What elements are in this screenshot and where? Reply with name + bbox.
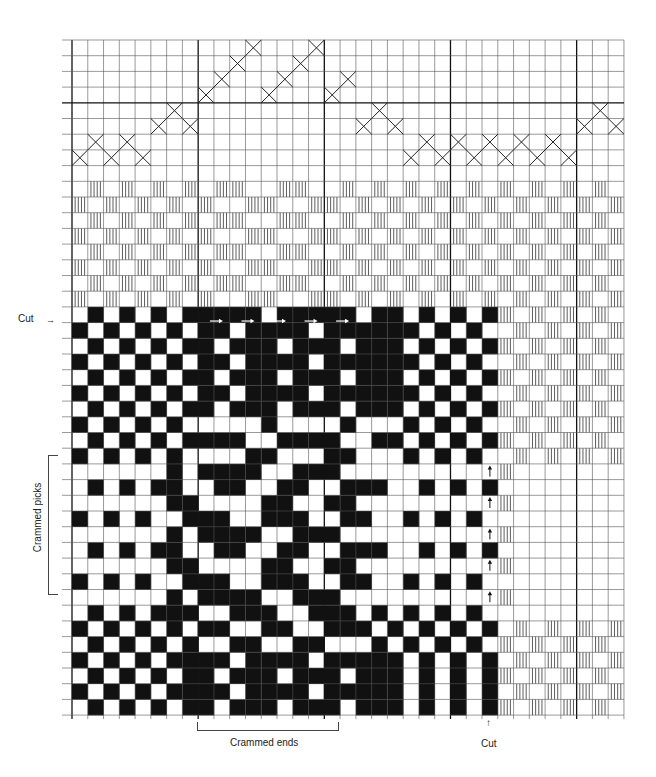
weave-cell-black: [372, 652, 388, 668]
weave-cell-black: [419, 668, 435, 684]
weave-cell-black: [151, 401, 167, 417]
weave-cell-black: [372, 323, 388, 339]
weave-cell-black: [119, 338, 135, 354]
weave-cell-black: [482, 338, 498, 354]
weave-cell-black: [198, 652, 214, 668]
weave-cell-black: [293, 527, 309, 543]
weave-cell-black: [324, 370, 340, 386]
weave-cell-black: [372, 385, 388, 401]
weave-cell-black: [198, 511, 214, 527]
weave-cell-black: [293, 354, 309, 370]
weave-cell-black: [340, 495, 356, 511]
weave-cell-black: [72, 354, 88, 370]
weave-cell-black: [293, 385, 309, 401]
weave-cell-black: [324, 385, 340, 401]
weave-cell-black: [435, 417, 451, 433]
weave-cell-black: [482, 684, 498, 700]
weave-cell-black: [324, 464, 340, 480]
weave-cell-black: [293, 652, 309, 668]
arrow-up-icon: ↑: [486, 718, 491, 728]
weave-cell-black: [182, 338, 198, 354]
weave-cell-black: [277, 558, 293, 574]
weave-cell-black: [293, 511, 309, 527]
weave-cell-black: [403, 637, 419, 653]
weave-cell-black: [214, 354, 230, 370]
weave-cell-black: [466, 574, 482, 590]
weave-cell-black: [182, 511, 198, 527]
weave-cell-black: [261, 558, 277, 574]
arrow-up-icon: [488, 528, 492, 532]
weave-cell-black: [277, 652, 293, 668]
weave-cell-black: [356, 370, 372, 386]
weave-cell-black: [261, 668, 277, 684]
weave-cell-black: [277, 433, 293, 449]
crammed-ends-label: Crammed ends: [230, 737, 298, 748]
weave-cell-black: [340, 417, 356, 433]
weave-cell-black: [387, 652, 403, 668]
weave-cell-black: [182, 307, 198, 323]
weave-cell-black: [419, 433, 435, 449]
weave-cell-black: [293, 323, 309, 339]
weave-cell-black: [372, 605, 388, 621]
weave-cell-black: [340, 480, 356, 496]
weave-cell-black: [419, 684, 435, 700]
weave-cell-black: [230, 590, 246, 606]
weave-cell-black: [466, 511, 482, 527]
weave-cell-black: [293, 668, 309, 684]
weave-cell-black: [403, 385, 419, 401]
weave-cell-black: [419, 652, 435, 668]
weave-cell-black: [435, 511, 451, 527]
weave-cell-black: [387, 370, 403, 386]
weave-cell-black: [340, 621, 356, 637]
weave-cell-black: [372, 668, 388, 684]
weave-cell-black: [356, 542, 372, 558]
weave-cell-black: [324, 668, 340, 684]
weave-cell-black: [214, 652, 230, 668]
weave-cell-black: [293, 590, 309, 606]
weave-cell-black: [198, 621, 214, 637]
weave-cell-black: [419, 699, 435, 715]
weave-cell-black: [167, 495, 183, 511]
weave-cell-black: [261, 401, 277, 417]
weave-cell-black: [450, 684, 466, 700]
weave-cell-black: [309, 433, 325, 449]
weave-cell-black: [356, 668, 372, 684]
weave-cell-black: [151, 542, 167, 558]
weave-cell-black: [167, 558, 183, 574]
weave-cell-black: [482, 307, 498, 323]
weave-cell-black: [151, 370, 167, 386]
weave-cell-black: [182, 401, 198, 417]
weave-cell-black: [135, 417, 151, 433]
weave-cell-black: [372, 370, 388, 386]
weave-cell-black: [403, 354, 419, 370]
weave-cell-black: [230, 338, 246, 354]
weave-cell-black: [151, 338, 167, 354]
weave-cell-black: [214, 684, 230, 700]
weave-cell-black: [372, 684, 388, 700]
weave-cell-black: [230, 542, 246, 558]
weave-cell-black: [88, 307, 104, 323]
weave-cell-black: [435, 574, 451, 590]
weave-cell-black: [293, 338, 309, 354]
weave-cell-black: [245, 354, 261, 370]
weave-cell-black: [450, 370, 466, 386]
weave-cell-black: [293, 480, 309, 496]
weave-cell-black: [198, 370, 214, 386]
weave-cell-black: [88, 605, 104, 621]
weave-cell-black: [309, 527, 325, 543]
weave-cell-black: [387, 433, 403, 449]
weave-cell-black: [167, 417, 183, 433]
weave-cell-black: [182, 495, 198, 511]
weave-cell-black: [309, 637, 325, 653]
weave-cell-black: [372, 307, 388, 323]
weave-cell-black: [340, 323, 356, 339]
weave-cell-black: [119, 307, 135, 323]
weave-cell-black: [72, 385, 88, 401]
weave-cell-black: [372, 699, 388, 715]
weave-cell-black: [356, 652, 372, 668]
weave-cell-black: [245, 637, 261, 653]
weave-cell-black: [182, 370, 198, 386]
weave-cell-black: [135, 621, 151, 637]
weave-cell-black: [277, 684, 293, 700]
weave-cell-black: [387, 684, 403, 700]
